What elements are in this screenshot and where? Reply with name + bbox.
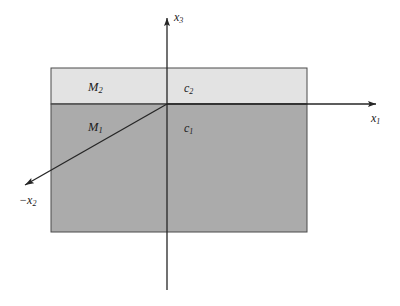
x3-axis-label-subscript: 3 [179,16,183,25]
lower-medium-label: M1 [88,121,103,134]
upper-medium-label: M2 [88,81,103,94]
upper-speed-label-subscript: 2 [189,87,193,96]
upper-medium-label-text: M [88,80,98,94]
upper-medium-label-subscript: 2 [98,85,102,95]
diagram-canvas: x1 x3 −x2 M2 M1 c2 c1 [0,0,400,306]
lower-speed-label-subscript: 1 [189,127,193,136]
lower-medium-label-subscript: 1 [98,125,102,135]
lower-speed-label: c1 [184,122,193,134]
negative-x2-axis-label: −x2 [19,194,36,206]
x1-axis-label: x1 [371,112,380,124]
lower-medium-label-text: M [88,120,98,134]
negative-x2-axis-label-subscript: 2 [32,199,36,208]
diagram-vector-layer [0,0,400,306]
x1-axis-label-subscript: 1 [376,117,380,126]
negative-x2-axis-label-text: −x [19,193,32,207]
upper-speed-label: c2 [184,82,193,94]
x3-axis-label: x3 [174,11,183,23]
